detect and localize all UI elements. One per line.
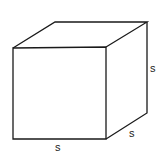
top-face: [13, 22, 147, 48]
front-face: [13, 47, 106, 139]
right-face: [106, 22, 147, 139]
label-depth-edge: s: [129, 127, 135, 139]
label-right-edge: s: [150, 62, 156, 74]
label-bottom-edge: s: [55, 141, 61, 153]
cube-diagram: s s s: [0, 0, 168, 158]
